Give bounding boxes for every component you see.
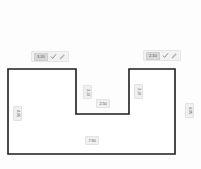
room-shape-canvas[interactable]: 3.20 2.10 4.05 4.05 [0, 0, 201, 169]
right-wall-dimension-chip[interactable]: 4.05 [185, 103, 194, 118]
pencil-icon[interactable] [59, 53, 66, 60]
top-left-wall-value[interactable]: 3.20 [34, 53, 48, 61]
top-left-wall-edit-chip[interactable]: 3.20 [31, 51, 69, 62]
left-wall-dimension-value: 4.05 [16, 110, 20, 117]
notch-bottom-dimension-value: 2.50 [100, 102, 107, 106]
check-icon[interactable] [50, 53, 57, 60]
left-wall-dimension-chip[interactable]: 4.05 [13, 106, 22, 121]
top-right-wall-value[interactable]: 2.10 [146, 52, 160, 60]
notch-bottom-dimension-chip[interactable]: 2.50 [96, 99, 110, 108]
notch-left-wall-dimension-chip[interactable]: 2.10 [83, 85, 92, 99]
pencil-icon[interactable] [171, 52, 178, 59]
top-right-wall-edit-chip[interactable]: 2.10 [143, 50, 181, 61]
room-shape-svg [0, 0, 201, 169]
right-wall-dimension-value: 4.05 [188, 107, 192, 114]
check-icon[interactable] [162, 52, 169, 59]
bottom-wall-dimension-value: 7.90 [89, 139, 96, 143]
notch-right-wall-dimension-value: 2.10 [137, 88, 141, 95]
notch-right-wall-dimension-chip[interactable]: 2.10 [134, 84, 143, 99]
notch-left-wall-dimension-value: 2.10 [86, 89, 90, 96]
bottom-wall-dimension-chip[interactable]: 7.90 [85, 136, 99, 145]
